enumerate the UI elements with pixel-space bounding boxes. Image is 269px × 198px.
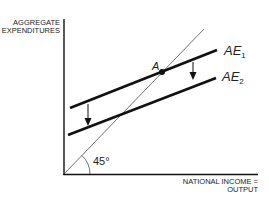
- shift-arrow-left: [85, 104, 92, 126]
- angle-arc: [82, 156, 90, 175]
- ae2-line: [68, 78, 216, 135]
- shift-arrow-right: [190, 62, 197, 80]
- ae1-line: [70, 50, 217, 108]
- angle-label: 45°: [93, 155, 110, 167]
- ae1-label: AE1: [223, 43, 246, 60]
- ae2-label: AE2: [221, 69, 244, 86]
- ae-diagram: AGGREGATE EXPENDITURES NATIONAL INCOME =…: [0, 0, 269, 198]
- x-axis-label-line2: OUTPUT: [227, 185, 258, 194]
- y-axis-label-line2: EXPENDITURES: [2, 26, 60, 35]
- equilibrium-point-a: [159, 69, 165, 75]
- point-a-label: A: [151, 60, 159, 72]
